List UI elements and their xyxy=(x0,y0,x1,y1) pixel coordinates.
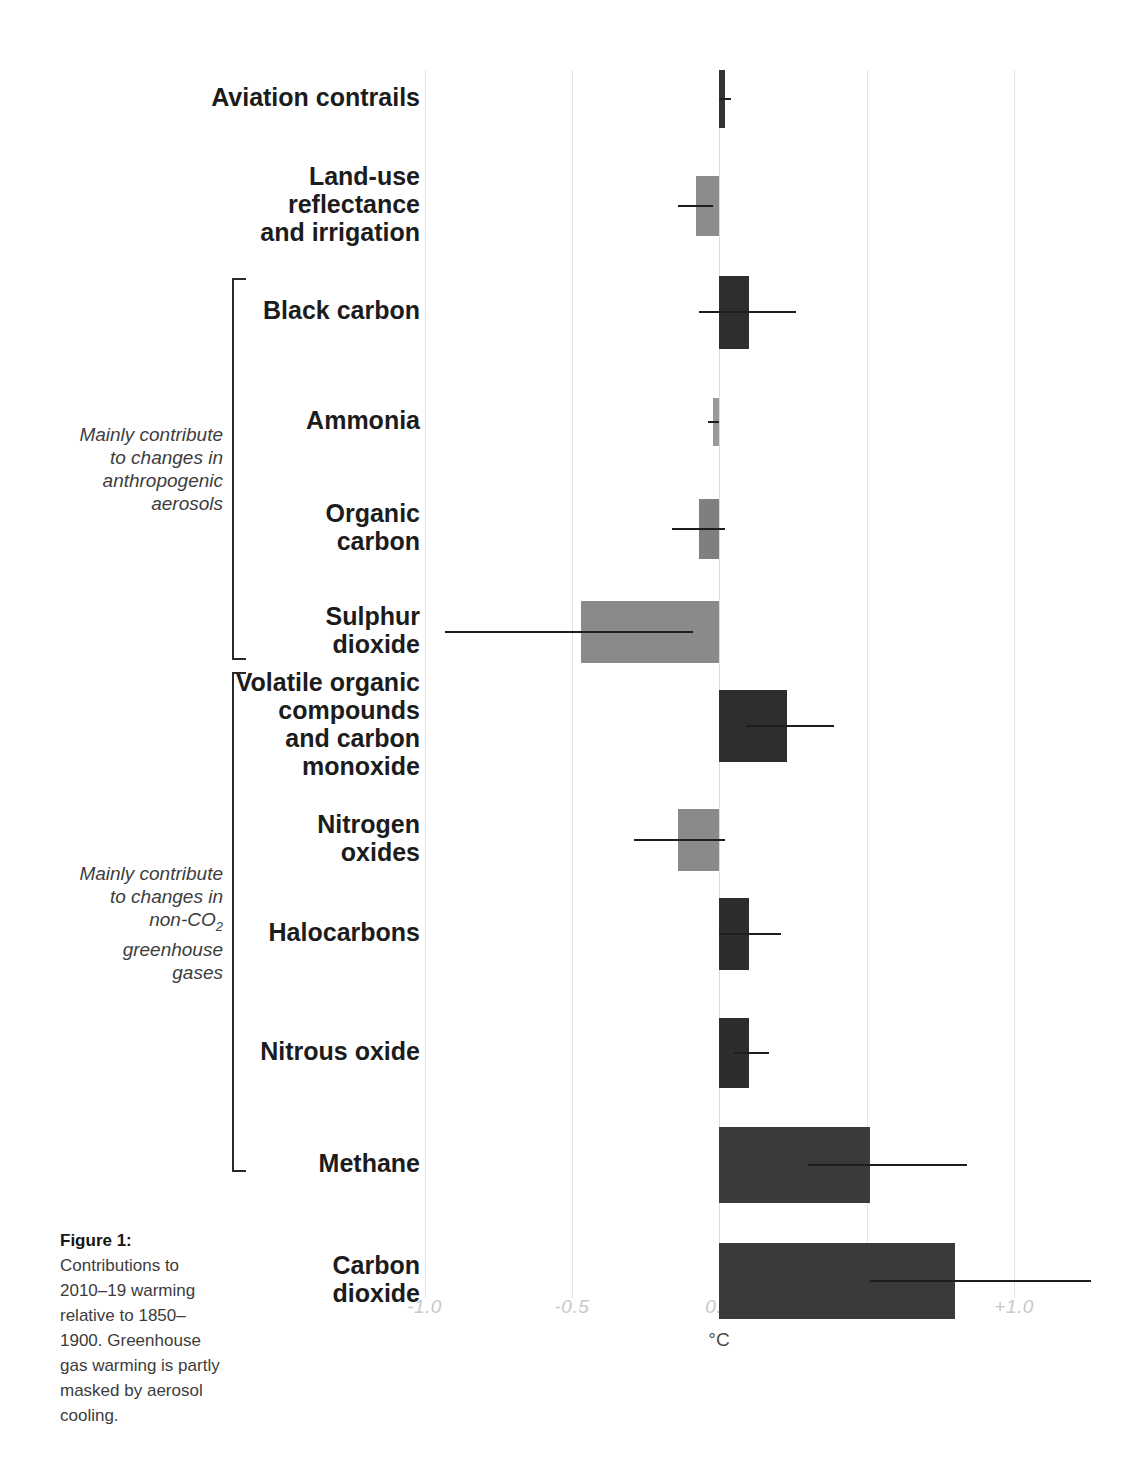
group-caption-line: gases xyxy=(48,961,223,984)
category-label-line: reflectance xyxy=(0,190,420,218)
group-caption-line: Mainly contribute xyxy=(48,423,223,446)
group-caption-line: greenhouse xyxy=(48,938,223,961)
error-bar-methane xyxy=(808,1164,967,1166)
group-caption-line: anthropogenic xyxy=(48,469,223,492)
x-axis-unit-label: °C xyxy=(708,1329,729,1351)
group-caption-line: aerosols xyxy=(48,492,223,515)
error-bar-nitrous-oxide xyxy=(734,1052,769,1054)
group-caption-non-co2-ghg: Mainly contributeto changes innon-CO2gre… xyxy=(48,862,223,984)
gridline--0.5 xyxy=(572,70,573,1298)
gridline--1.0 xyxy=(425,70,426,1298)
category-label-line: carbon xyxy=(0,527,420,555)
x-tick-label--0.5: -0.5 xyxy=(555,1296,590,1318)
x-tick-label-+1.0: +1.0 xyxy=(994,1296,1034,1318)
category-label-line: dioxide xyxy=(0,630,420,658)
category-label-methane: Methane xyxy=(0,1149,420,1177)
category-label-sulphur-dioxide: Sulphurdioxide xyxy=(0,602,420,658)
error-bar-land-use-reflectance-and-irrigation xyxy=(678,205,713,207)
category-label-black-carbon: Black carbon xyxy=(0,296,420,324)
category-label-line: Methane xyxy=(0,1149,420,1177)
gridline-+0.5 xyxy=(867,70,868,1298)
error-bar-aviation-contrails xyxy=(719,98,731,100)
error-bar-organic-carbon xyxy=(672,528,725,530)
error-bar-ammonia xyxy=(708,421,720,423)
category-label-aviation-contrails: Aviation contrails xyxy=(0,83,420,111)
group-bracket-non-co2-ghg xyxy=(232,672,246,1172)
category-label-line: Nitrous oxide xyxy=(0,1037,420,1065)
category-label-line: Volatile organic xyxy=(0,668,420,696)
category-label-line: Land-use xyxy=(0,162,420,190)
group-caption-line: non-CO2 xyxy=(48,908,223,938)
error-bar-nitrogen-oxides xyxy=(634,839,725,841)
category-label-line: Sulphur xyxy=(0,602,420,630)
gridline-+1.0 xyxy=(1014,70,1015,1298)
figure-caption-title: Figure 1: xyxy=(60,1231,132,1250)
error-bar-halocarbons xyxy=(719,933,781,935)
group-caption-aerosols: Mainly contributeto changes inanthropoge… xyxy=(48,423,223,515)
category-label-line: and carbon xyxy=(0,724,420,752)
figure-page: -1.0-0.50.0+0.5+1.0 °C Aviation contrail… xyxy=(0,0,1148,1475)
error-bar-carbon-dioxide xyxy=(870,1280,1091,1282)
figure-caption: Figure 1: Contributions to 2010–19 warmi… xyxy=(60,1228,220,1428)
group-caption-line: Mainly contribute xyxy=(48,862,223,885)
group-caption-line: to changes in xyxy=(48,885,223,908)
category-label-line: and irrigation xyxy=(0,218,420,246)
category-label-line: Aviation contrails xyxy=(0,83,420,111)
gridline-0.0 xyxy=(719,70,720,1298)
category-label-land-use-reflectance-and-irrigation: Land-usereflectanceand irrigation xyxy=(0,162,420,246)
figure-caption-body: Contributions to 2010–19 warming relativ… xyxy=(60,1256,220,1425)
category-label-line: compounds xyxy=(0,696,420,724)
error-bar-sulphur-dioxide xyxy=(445,631,693,633)
category-label-nitrogen-oxides: Nitrogenoxides xyxy=(0,810,420,866)
category-label-volatile-organic-compounds-and-carbon-monoxide: Volatile organiccompoundsand carbonmonox… xyxy=(0,668,420,780)
group-bracket-aerosols xyxy=(232,278,246,660)
group-caption-subscript: 2 xyxy=(216,919,223,934)
category-label-line: Black carbon xyxy=(0,296,420,324)
error-bar-volatile-organic-compounds-and-carbon-monoxide xyxy=(746,725,834,727)
category-label-nitrous-oxide: Nitrous oxide xyxy=(0,1037,420,1065)
error-bar-black-carbon xyxy=(699,311,796,313)
category-label-line: monoxide xyxy=(0,752,420,780)
group-caption-line: to changes in xyxy=(48,446,223,469)
category-label-line: Nitrogen xyxy=(0,810,420,838)
